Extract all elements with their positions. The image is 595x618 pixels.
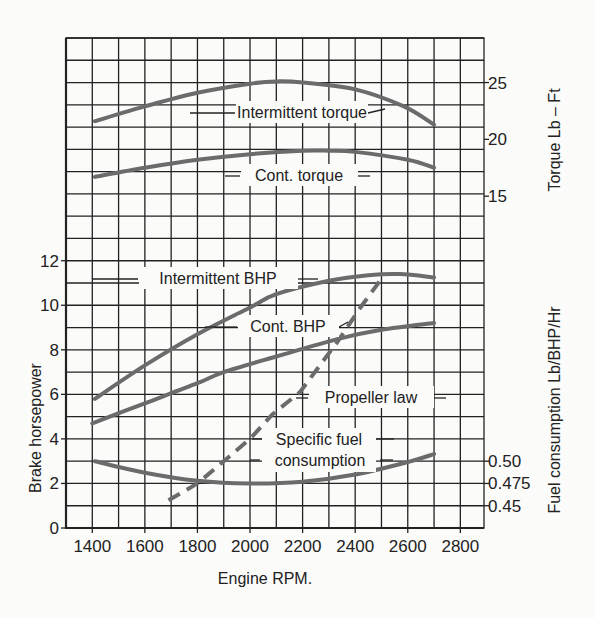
label-specific-fuel-consumption: Specific fuel consumption xyxy=(250,428,394,472)
y-axis-title-bhp: Brake horsepower xyxy=(27,362,44,493)
leader-line xyxy=(339,322,348,327)
bhp-tick-label: 6 xyxy=(50,385,59,404)
series-cont-bhp xyxy=(92,323,434,423)
fuel-tick-label: 0.45 xyxy=(488,497,521,516)
x-axis-title: Engine RPM. xyxy=(218,570,312,587)
curve-label: Cont. torque xyxy=(255,167,343,184)
torque-tick-label: 20 xyxy=(488,130,507,149)
leader-line xyxy=(368,109,385,113)
x-tick-label: 1800 xyxy=(179,537,217,556)
y-axis-title-fuel: Fuel consumption Lb/BHP/Hr xyxy=(546,306,563,514)
curve-label: Propeller law xyxy=(325,389,418,406)
bhp-tick-label: 12 xyxy=(40,252,59,271)
x-tick-label: 2600 xyxy=(389,537,427,556)
x-tick-label: 2200 xyxy=(284,537,322,556)
curve-label: consumption xyxy=(275,452,366,469)
bhp-tick-label: 10 xyxy=(40,296,59,315)
curve-label: Cont. BHP xyxy=(250,318,326,335)
fuel-tick-label: 0.475 xyxy=(488,474,531,493)
torque-tick-label: 15 xyxy=(488,187,507,206)
fuel-tick-label: 0.50 xyxy=(488,452,521,471)
curve-label: Specific fuel xyxy=(276,431,362,448)
x-tick-label: 2000 xyxy=(231,537,269,556)
label-intermittent-bhp: Intermittent BHP xyxy=(92,267,318,289)
y-axis-title-torque: Torque Lb – Ft xyxy=(546,88,563,192)
x-tick-label: 1600 xyxy=(126,537,164,556)
label-cont-torque: Cont. torque xyxy=(225,164,370,186)
x-tick-label: 2800 xyxy=(441,537,479,556)
x-tick-label: 1400 xyxy=(73,537,111,556)
engine-performance-chart: Intermittent torque Cont. torque Intermi… xyxy=(0,0,595,618)
label-propeller-law: Propeller law xyxy=(296,386,446,408)
torque-tick-label: 25 xyxy=(488,74,507,93)
curve-label: Intermittent torque xyxy=(237,104,367,121)
bhp-tick-label: 0 xyxy=(50,519,59,538)
x-tick-label: 2400 xyxy=(336,537,374,556)
bhp-tick-label: 2 xyxy=(50,474,59,493)
curve-label: Intermittent BHP xyxy=(159,270,276,287)
bhp-tick-label: 4 xyxy=(50,430,59,449)
bhp-tick-label: 8 xyxy=(50,341,59,360)
